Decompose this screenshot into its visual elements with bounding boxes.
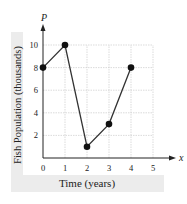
- data-point: [128, 64, 135, 71]
- x-tick-label: 0: [41, 163, 45, 173]
- y-tick-label: 8: [34, 63, 38, 73]
- data-point: [62, 42, 69, 49]
- y-axis-arrow-icon: [41, 24, 46, 31]
- data-point: [84, 143, 91, 150]
- data-point: [40, 64, 47, 71]
- y-tick-label: 10: [30, 40, 39, 50]
- x-tick-label: 1: [63, 163, 67, 173]
- x-tick-label: 5: [151, 163, 155, 173]
- x-axis-symbol: x: [178, 152, 184, 163]
- y-axis-symbol: P: [40, 12, 47, 23]
- line-chart: xP012345246810: [0, 0, 187, 204]
- x-tick-label: 2: [85, 163, 89, 173]
- data-point: [106, 121, 113, 128]
- x-tick-label: 4: [129, 163, 134, 173]
- x-axis-arrow-icon: [169, 156, 176, 161]
- y-tick-label: 6: [34, 85, 38, 95]
- x-tick-label: 3: [107, 163, 111, 173]
- y-tick-label: 4: [34, 108, 39, 118]
- y-tick-label: 2: [34, 130, 38, 140]
